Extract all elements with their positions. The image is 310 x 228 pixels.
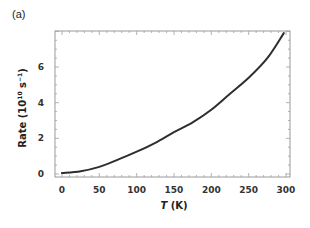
x-tick-label: 200 <box>202 185 221 195</box>
x-tick-label: 100 <box>127 185 146 195</box>
plot-frame <box>55 31 290 177</box>
y-tick-label: 4 <box>38 98 44 108</box>
y-tick-label: 2 <box>38 133 44 143</box>
panel-label: (a) <box>12 8 25 20</box>
y-tick-labels: 0246 <box>38 62 44 179</box>
y-axis-label: Rate (1010 s−1) <box>16 68 28 148</box>
y-axis-label-text: Rate (10 <box>17 100 28 148</box>
y-axis-exp1: 10 <box>16 91 23 99</box>
axis-ticks <box>55 31 290 177</box>
y-tick-label: 6 <box>38 62 44 72</box>
x-axis-label: T (K) <box>160 200 187 211</box>
rate-curve <box>62 33 284 173</box>
x-tick-label: 300 <box>277 185 296 195</box>
rate-vs-temperature-chart: (a) 050100150200250300 0246 T (K) Rate (… <box>0 0 310 228</box>
x-tick-label: 0 <box>59 185 65 195</box>
y-axis-unit: s <box>17 82 28 91</box>
y-tick-label: 0 <box>38 169 44 179</box>
x-tick-label: 250 <box>239 185 258 195</box>
x-tick-labels: 050100150200250300 <box>59 185 296 195</box>
x-tick-label: 150 <box>165 185 184 195</box>
y-axis-close: ) <box>17 68 28 73</box>
x-axis-unit: (K) <box>167 200 187 211</box>
y-axis-exp2: −1 <box>16 73 23 82</box>
x-tick-label: 50 <box>93 185 106 195</box>
